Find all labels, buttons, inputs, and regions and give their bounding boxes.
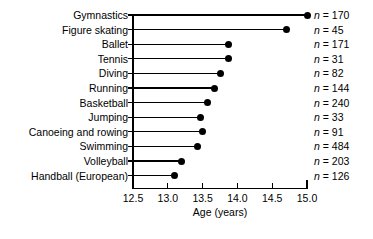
sample-size-label: n = 45	[314, 24, 344, 36]
x-axis-line	[133, 188, 307, 189]
data-point-marker	[283, 26, 290, 33]
x-axis-tick	[237, 183, 238, 188]
sample-size-label: n = 33	[314, 111, 344, 123]
sample-size-label: n = 144	[314, 82, 349, 94]
n-value: = 203	[320, 155, 350, 167]
sample-size-label: n = 91	[314, 126, 344, 138]
value-stem	[133, 175, 175, 176]
x-axis-title: Age (years)	[0, 206, 373, 218]
n-value: = 31	[320, 53, 344, 65]
x-axis-tick-label: 13.0	[158, 192, 178, 204]
value-stem	[133, 131, 203, 132]
value-stem	[133, 29, 286, 30]
sample-size-label: n = 31	[314, 53, 344, 65]
value-stem	[133, 146, 197, 147]
sample-size-label: n = 82	[314, 67, 344, 79]
n-value: = 171	[320, 38, 350, 50]
data-point-marker	[225, 41, 232, 48]
n-value: = 33	[320, 111, 344, 123]
data-point-marker	[197, 114, 204, 121]
n-value: = 144	[320, 82, 350, 94]
data-point-marker	[225, 55, 232, 62]
value-stem	[133, 160, 182, 161]
data-point-marker	[171, 172, 178, 179]
x-axis-tick	[167, 183, 168, 188]
data-point-marker	[194, 143, 201, 150]
value-stem	[133, 117, 201, 118]
data-point-marker	[217, 70, 224, 77]
lollipop-chart: GymnasticsFigure skatingBalletTennisDivi…	[0, 0, 373, 239]
value-stem	[133, 44, 228, 45]
sample-size-label: n = 170	[314, 9, 349, 21]
x-axis-tick	[272, 183, 273, 188]
data-point-marker	[199, 128, 206, 135]
axis-left-spine	[132, 14, 133, 189]
sample-size-label: n = 484	[314, 140, 349, 152]
data-point-marker	[178, 158, 185, 165]
n-value: = 484	[320, 140, 350, 152]
sample-size-label: n = 203	[314, 155, 349, 167]
sample-size-label: n = 126	[314, 170, 349, 182]
data-point-marker	[204, 99, 211, 106]
n-value: = 82	[320, 67, 344, 79]
x-axis-tick-label: 14.5	[262, 192, 282, 204]
x-axis-tick-label: 14.0	[227, 192, 247, 204]
value-stem	[133, 58, 228, 59]
sample-size-annotations: n = 170n = 45n = 171n = 31n = 82n = 144n…	[314, 0, 373, 200]
x-axis-tick-label: 13.5	[192, 192, 212, 204]
x-axis-tick	[202, 183, 203, 188]
data-point-marker	[304, 12, 311, 19]
value-stem	[133, 102, 207, 103]
n-value: = 170	[320, 9, 350, 21]
n-value: = 45	[320, 24, 344, 36]
value-stem	[133, 73, 220, 74]
n-value: = 91	[320, 126, 344, 138]
value-stem	[133, 14, 307, 15]
n-value: = 126	[320, 170, 350, 182]
value-stem	[133, 87, 214, 88]
x-axis-tick-label: 12.5	[123, 192, 143, 204]
sample-size-label: n = 240	[314, 97, 349, 109]
data-point-marker	[211, 85, 218, 92]
sample-size-label: n = 171	[314, 38, 349, 50]
n-value: = 240	[320, 97, 350, 109]
